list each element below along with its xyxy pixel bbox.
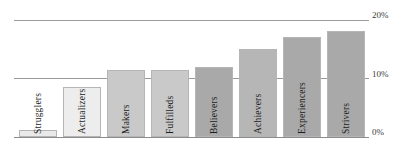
bar-actualizers[interactable] — [63, 87, 101, 137]
bar-achievers[interactable] — [239, 49, 277, 137]
bar-strugglers[interactable] — [19, 130, 57, 137]
ytick-label-20: 20% — [372, 10, 389, 20]
gridline-20-percent — [14, 20, 369, 21]
plot-area: 20% 10% 0% Strugglers Actualizers Makers… — [0, 0, 400, 143]
bar-label-strugglers: Strugglers — [33, 93, 43, 134]
ytick-label-10: 10% — [372, 69, 389, 79]
bar-experiencers[interactable] — [283, 37, 321, 137]
bar-makers[interactable] — [107, 70, 145, 137]
axis-baseline-0-percent — [14, 137, 369, 138]
ytick-label-0: 0% — [372, 127, 384, 137]
bar-fulfilleds[interactable] — [151, 70, 189, 137]
bar-strivers[interactable] — [327, 31, 365, 137]
bar-chart: 20% 10% 0% Strugglers Actualizers Makers… — [0, 0, 400, 143]
bar-believers[interactable] — [195, 67, 233, 137]
